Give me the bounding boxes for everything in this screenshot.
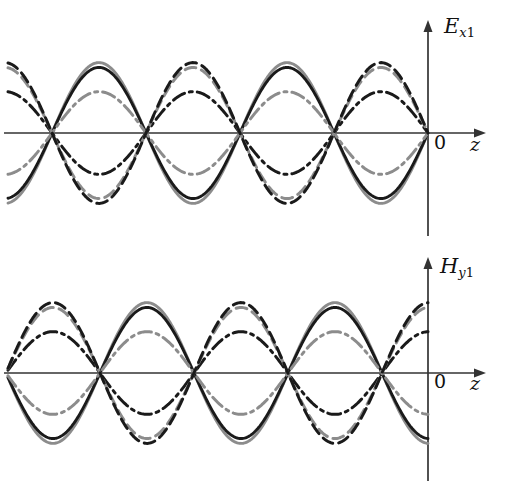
panel-magnetic-field bbox=[0, 243, 508, 487]
y-axis-label-subscript-var: y bbox=[458, 265, 465, 280]
axis-arrowhead bbox=[424, 20, 433, 32]
panel-electric-field bbox=[0, 0, 508, 245]
y-axis-label-main: E bbox=[444, 14, 459, 38]
y-axis-label-main: H bbox=[440, 254, 458, 278]
origin-label-electric-field: 0 bbox=[434, 131, 446, 153]
axis-arrowhead bbox=[424, 257, 433, 269]
plot-area-magnetic-field bbox=[0, 243, 508, 487]
y-axis-label-subscript-num: 1 bbox=[467, 25, 475, 40]
x-axis-label-magnetic-field: z bbox=[470, 372, 480, 394]
y-axis-label-magnetic-field: Hy1 bbox=[440, 254, 474, 280]
x-axis-label-electric-field: z bbox=[470, 133, 480, 155]
origin-label-magnetic-field: 0 bbox=[434, 370, 446, 392]
y-axis-label-subscript-num: 1 bbox=[466, 265, 474, 280]
standing-wave-figure: Ex1 0 z Hy1 0 z bbox=[0, 0, 508, 487]
plot-area-electric-field bbox=[0, 0, 508, 245]
y-axis-label-electric-field: Ex1 bbox=[444, 14, 475, 40]
y-axis-label-subscript-var: x bbox=[459, 25, 466, 40]
